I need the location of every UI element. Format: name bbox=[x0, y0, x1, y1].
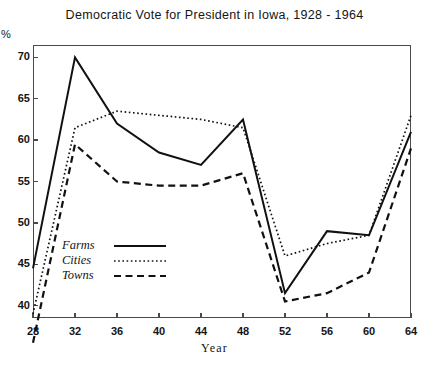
legend-label: Towns bbox=[62, 268, 110, 283]
legend-swatch-solid bbox=[114, 241, 166, 251]
chart-title: Democratic Vote for President in Iowa, 1… bbox=[0, 8, 429, 22]
legend-swatch-dotted bbox=[114, 256, 166, 266]
y-axis-tick-label: 60 bbox=[4, 133, 30, 145]
x-axis-tick-label: 44 bbox=[186, 325, 216, 337]
y-axis-tick-label: 50 bbox=[4, 216, 30, 228]
legend-label: Farms bbox=[62, 238, 110, 253]
x-axis-tick-label: 40 bbox=[144, 325, 174, 337]
legend-item-towns: Towns bbox=[62, 268, 166, 283]
y-axis-tick-label: 40 bbox=[4, 299, 30, 311]
legend-item-cities: Cities bbox=[62, 253, 166, 268]
legend-swatch-dashed bbox=[114, 271, 166, 281]
x-axis-tick-label: 32 bbox=[60, 325, 90, 337]
x-axis-tick-label: 56 bbox=[312, 325, 342, 337]
y-axis-tick-label: 65 bbox=[4, 92, 30, 104]
x-axis-tick-label: 64 bbox=[396, 325, 426, 337]
x-axis-tick-label: 28 bbox=[18, 325, 48, 337]
y-axis-tick-label: 70 bbox=[4, 50, 30, 62]
chart-legend: FarmsCitiesTowns bbox=[62, 238, 166, 283]
chart-container: Democratic Vote for President in Iowa, 1… bbox=[0, 0, 429, 365]
x-axis-tick-label: 52 bbox=[270, 325, 300, 337]
legend-label: Cities bbox=[62, 253, 110, 268]
x-axis-tick-label: 60 bbox=[354, 325, 384, 337]
y-axis-tick-label: 45 bbox=[4, 257, 30, 269]
y-axis-tick-label: 55 bbox=[4, 175, 30, 187]
x-axis-tick-label: 48 bbox=[228, 325, 258, 337]
y-axis-unit-label: % bbox=[1, 28, 11, 40]
legend-item-farms: Farms bbox=[62, 238, 166, 253]
x-axis-title: Year bbox=[0, 341, 429, 356]
x-axis-tick-label: 36 bbox=[102, 325, 132, 337]
